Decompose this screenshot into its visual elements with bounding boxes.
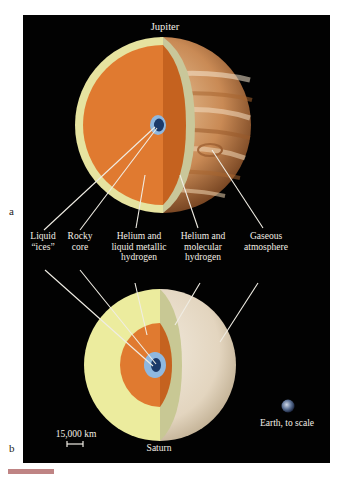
panel-b-letter: b bbox=[9, 442, 15, 454]
label-molecular-hydrogen: Helium and molecular hydrogen bbox=[170, 231, 236, 263]
scale-bar-label: 15,000 km bbox=[48, 429, 104, 440]
panel-a-letter: a bbox=[9, 205, 14, 217]
earth-label: Earth, to scale bbox=[250, 418, 324, 429]
saturn-title: Saturn bbox=[134, 443, 184, 454]
saturn-cutaway bbox=[84, 289, 236, 441]
label-rocky-core: Rocky core bbox=[60, 231, 100, 252]
scale-bar bbox=[67, 441, 83, 447]
label-metallic-hydrogen: Helium and liquid metallic hydrogen bbox=[100, 231, 178, 263]
figure-caption-fragment bbox=[8, 469, 54, 474]
jupiter-cutaway bbox=[75, 37, 252, 213]
jupiter-title: Jupiter bbox=[140, 22, 190, 33]
earth-icon bbox=[282, 400, 295, 413]
label-gaseous-atmosphere: Gaseous atmosphere bbox=[236, 231, 296, 252]
